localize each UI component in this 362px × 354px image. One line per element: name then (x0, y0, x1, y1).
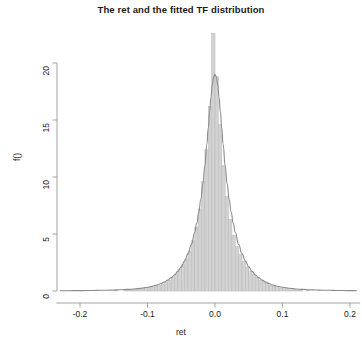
histogram-bar (276, 288, 279, 291)
histogram-bar (188, 251, 191, 291)
histogram-bar (215, 77, 218, 291)
histogram-bar (198, 209, 201, 291)
histogram-bar (232, 235, 235, 291)
histogram-bar (272, 286, 275, 291)
histogram-bar (208, 106, 211, 291)
x-tick-label: -0.1 (140, 309, 155, 319)
histogram-bar (212, 33, 215, 291)
y-tick-label: 20 (41, 66, 51, 76)
histogram-bar (191, 241, 194, 291)
histogram-bars (114, 33, 310, 291)
histogram-bar (202, 182, 205, 291)
histogram-bar (137, 289, 140, 291)
histogram-bar (171, 277, 174, 291)
y-tick-label: 0 (41, 294, 51, 299)
histogram-bar (141, 289, 144, 291)
y-axis-label: f() (12, 142, 22, 172)
histogram-bar (235, 247, 238, 291)
y-tick-label: 10 (41, 180, 51, 190)
histogram-bar (293, 290, 296, 291)
histogram-bar (151, 287, 154, 291)
x-tick-label: 0.0 (209, 309, 221, 319)
histogram-bar (175, 274, 178, 291)
histogram-bar (279, 288, 282, 291)
y-tick-label: 5 (41, 237, 51, 242)
histogram-bar (154, 286, 157, 291)
histogram-bar (262, 282, 265, 291)
histogram-bar (144, 289, 147, 291)
histogram-bar (239, 255, 242, 291)
histogram-bar (218, 125, 221, 291)
histogram-bar (249, 271, 252, 291)
chart-figure: The ret and the fitted TF distribution r… (0, 0, 362, 354)
x-tick-label: 0.1 (277, 309, 289, 319)
histogram-bar (222, 166, 225, 291)
histogram-bar (266, 284, 269, 291)
y-tick-label: 15 (41, 123, 51, 133)
histogram-bar (195, 227, 198, 291)
chart-title: The ret and the fitted TF distribution (0, 4, 362, 15)
histogram-bar (289, 290, 292, 291)
x-tick-label: 0.2 (344, 309, 356, 319)
histogram-bar (124, 290, 127, 291)
plot-canvas: 05101520-0.2-0.10.00.10.2 (0, 0, 362, 354)
histogram-bar (158, 285, 161, 291)
histogram-bar (245, 267, 248, 291)
histogram-bar (164, 282, 167, 291)
histogram-bar (185, 259, 188, 291)
histogram-bar (242, 261, 245, 291)
histogram-bar (168, 280, 171, 291)
x-axis-label: ret (0, 327, 362, 337)
x-tick-label: -0.2 (73, 309, 88, 319)
histogram-bar (148, 288, 151, 291)
histogram-bar (181, 265, 184, 291)
histogram-bar (161, 284, 164, 291)
histogram-bar (299, 290, 302, 291)
histogram-bar (131, 290, 134, 291)
histogram-bar (296, 290, 299, 291)
histogram-bar (127, 290, 130, 291)
histogram-bar (225, 196, 228, 291)
histogram-bar (283, 289, 286, 291)
histogram-bar (178, 269, 181, 291)
histogram-bar (205, 150, 208, 291)
histogram-bar (256, 277, 259, 291)
histogram-bar (229, 219, 232, 291)
histogram-bar (134, 290, 137, 291)
histogram-bar (269, 285, 272, 291)
histogram-bar (252, 274, 255, 291)
histogram-bar (259, 280, 262, 291)
histogram-bar (286, 289, 289, 291)
histogram-bar (306, 290, 309, 291)
